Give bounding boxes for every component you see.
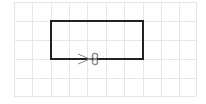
- grid-diagram: [0, 0, 206, 104]
- grid-lines: [14, 2, 197, 97]
